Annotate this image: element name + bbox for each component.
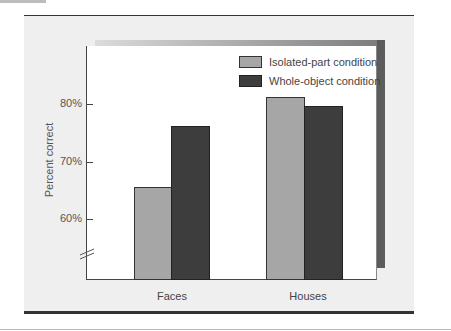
axis-break-icon [78,246,96,262]
legend: Isolated-part condition Whole-object con… [239,52,380,90]
legend-item-whole-object: Whole-object condition [239,71,380,90]
bar-faces-whole-object [171,126,210,280]
y-tick-80 [86,104,93,105]
y-tick-70 [86,162,93,163]
legend-swatch-isolated-part [239,56,262,68]
legend-label-whole-object: Whole-object condition [269,75,380,87]
page-bottom-rule [0,329,451,330]
bar-faces-isolated-part [134,187,172,280]
legend-swatch-whole-object [239,75,262,87]
y-tick-60 [86,219,93,220]
legend-item-isolated-part: Isolated-part condition [239,52,380,71]
top-stub-line [0,0,46,3]
y-axis-label: Percent correct [43,105,55,215]
legend-label-isolated-part: Isolated-part condition [269,56,377,68]
bar-houses-whole-object [304,106,343,280]
x-label-houses: Houses [278,290,338,302]
bar-houses-isolated-part [266,97,305,280]
x-label-faces: Faces [142,290,202,302]
figure-bottom-rule [24,311,414,314]
